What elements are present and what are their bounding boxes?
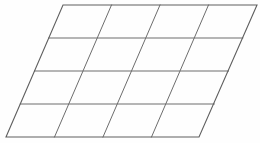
figure-container: [0, 0, 260, 143]
parallelogram-grid-figure: [0, 0, 260, 143]
